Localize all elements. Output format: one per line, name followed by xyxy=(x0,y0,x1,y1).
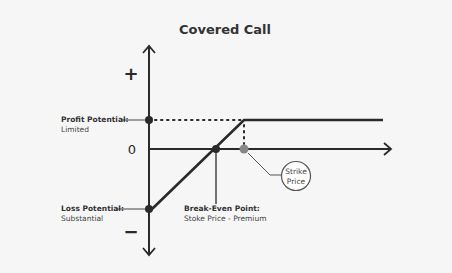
strike-label-line2: Price xyxy=(287,177,306,186)
break-even-detail: Stoke Price - Premium xyxy=(184,214,267,223)
profit-dot xyxy=(145,116,153,124)
minus-sign: − xyxy=(123,221,138,242)
y-axis xyxy=(143,46,155,255)
strike-dot xyxy=(240,145,249,154)
covered-call-diagram: Covered Call + − 0 Strike Price Profit P… xyxy=(0,0,452,273)
x-axis xyxy=(149,143,391,155)
strike-label-line1: Strike xyxy=(285,167,307,176)
payoff-line xyxy=(151,120,383,210)
loss-detail: Substantial xyxy=(61,214,103,223)
plus-sign: + xyxy=(123,63,138,84)
break-even-dot xyxy=(212,145,220,153)
strike-leader-line xyxy=(248,153,282,175)
diagram-title: Covered Call xyxy=(179,22,271,37)
break-even-heading: Break-Even Point: xyxy=(184,204,260,213)
zero-label: 0 xyxy=(128,142,136,157)
loss-heading: Loss Potential: xyxy=(61,204,124,213)
loss-dot xyxy=(145,205,153,213)
strike-bubble xyxy=(282,162,311,191)
profit-detail: Limited xyxy=(61,125,89,134)
profit-heading: Profit Potential: xyxy=(61,115,129,124)
